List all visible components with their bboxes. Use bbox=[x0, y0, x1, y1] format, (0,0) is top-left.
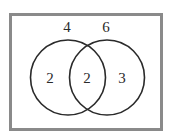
venn-circles bbox=[0, 0, 170, 135]
right-only-count: 3 bbox=[118, 71, 126, 86]
left-circle bbox=[31, 40, 106, 115]
intersection-count: 2 bbox=[83, 71, 91, 86]
right-circle bbox=[70, 40, 145, 115]
right-set-total-label: 6 bbox=[102, 20, 110, 35]
left-set-total-label: 4 bbox=[63, 20, 71, 35]
left-only-count: 2 bbox=[46, 71, 54, 86]
